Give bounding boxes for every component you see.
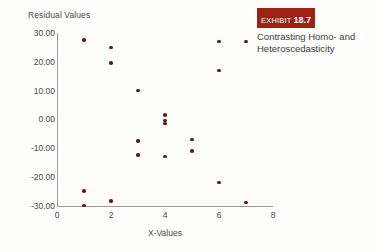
scatter-point — [190, 149, 194, 153]
exhibit-badge-number: 18.7 — [294, 15, 312, 25]
exhibit-caption: Contrasting Homo- and Heteroscedasticity — [257, 31, 375, 56]
scatter-point — [82, 189, 86, 193]
scatter-chart: Residual Values 30.0020.0010.000.00-10.0… — [0, 0, 300, 252]
scatter-point — [109, 61, 113, 65]
scatter-point — [190, 138, 194, 142]
scatter-point — [217, 40, 221, 44]
scatter-point — [82, 38, 86, 42]
exhibit-caption-line-1: Contrasting Homo- and — [257, 31, 375, 44]
scatter-point — [163, 113, 167, 117]
x-axis-title: X-Values — [57, 228, 273, 238]
scatter-point — [82, 204, 86, 208]
exhibit-figure: Residual Values 30.0020.0010.000.00-10.0… — [0, 0, 377, 252]
scatter-point — [136, 89, 140, 93]
scatter-point — [244, 40, 248, 44]
scatter-point — [136, 153, 140, 157]
scatter-point — [136, 139, 140, 143]
exhibit-caption-line-2: Heteroscedasticity — [257, 43, 375, 56]
scatter-point — [109, 199, 113, 203]
exhibit-callout: EXHIBIT18.7 Contrasting Homo- and Hetero… — [257, 8, 375, 56]
data-points-layer — [0, 0, 300, 252]
scatter-point — [109, 46, 113, 50]
exhibit-badge: EXHIBIT18.7 — [257, 8, 315, 28]
exhibit-badge-label: EXHIBIT — [261, 16, 292, 25]
scatter-point — [217, 69, 221, 73]
scatter-point — [217, 181, 221, 185]
scatter-point — [163, 122, 167, 126]
scatter-point — [244, 201, 248, 205]
scatter-point — [163, 155, 167, 159]
